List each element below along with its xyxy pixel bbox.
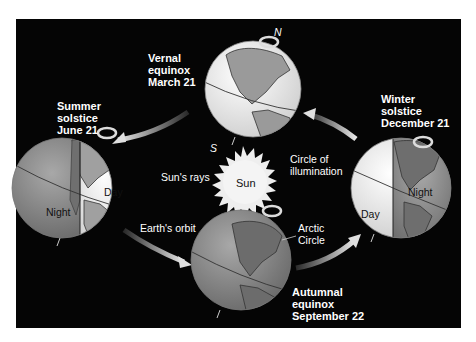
orbit-arrow-summer-to-autumnal [124, 230, 192, 268]
label-line: Arctic [298, 222, 325, 234]
arctic-circle-label: Arctic Circle [298, 222, 325, 246]
winter-solstice-label: Winter solstice December 21 [381, 93, 450, 129]
label-line: illumination [290, 165, 343, 177]
circle-of-illumination-label: Circle of illumination [290, 153, 343, 177]
label-line: September 22 [292, 310, 364, 322]
label-line: Summer [57, 100, 101, 112]
label-line: solstice [57, 112, 101, 124]
suns-rays-label: Sun's rays [161, 171, 210, 183]
label-line: Vernal [148, 52, 196, 64]
summer-solstice-label: Summer solstice June 21 [57, 100, 101, 136]
label-line: equinox [292, 298, 364, 310]
north-pole-label: N [274, 26, 282, 38]
globe-autumnal-equinox [191, 206, 296, 318]
night-label-summer: Night [46, 206, 71, 218]
label-line: June 21 [57, 124, 101, 136]
night-label-winter: Night [408, 186, 433, 198]
label-line: equinox [148, 64, 196, 76]
orbit-arrow-vernal-to-summer [112, 112, 188, 144]
autumnal-equinox-label: Autumnal equinox September 22 [292, 286, 364, 322]
label-line: Autumnal [292, 286, 364, 298]
day-label-winter: Day [361, 208, 380, 220]
label-line: Winter [381, 93, 450, 105]
orbit-arrow-winter-to-vernal [303, 108, 356, 139]
seasons-diagram [0, 0, 476, 342]
globe-winter-solstice [351, 130, 463, 250]
rotation-ring-icon [263, 206, 281, 216]
south-pole-label: S [210, 142, 217, 154]
label-line: Circle [298, 234, 325, 246]
label-line: solstice [381, 105, 450, 117]
earths-orbit-label: Earth's orbit [140, 222, 196, 234]
vernal-equinox-label: Vernal equinox March 21 [148, 52, 196, 88]
label-line: December 21 [381, 117, 450, 129]
sun-label: Sun [236, 177, 256, 189]
label-line: Circle of [290, 153, 343, 165]
globe-vernal-equinox [200, 37, 305, 145]
label-line: March 21 [148, 76, 196, 88]
day-label-summer: Day [104, 186, 123, 198]
